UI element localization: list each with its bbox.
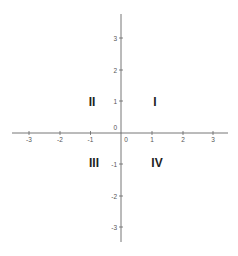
y-tick-label: 1 xyxy=(113,98,117,105)
y-tick-label: -2 xyxy=(111,193,117,200)
x-tick-label: 2 xyxy=(181,136,185,143)
y-tick-label: 3 xyxy=(113,35,117,42)
x-tick-label: -1 xyxy=(88,136,94,143)
quadrant-labels: II I III IV xyxy=(89,95,163,170)
x-tick-label: 3 xyxy=(211,136,215,143)
quadrant-label-iii: III xyxy=(89,156,99,170)
coordinate-plane: -3 -2 -1 0 1 2 3 3 2 1 0 -1 -2 -3 II I I… xyxy=(0,0,238,256)
x-tick-label: 1 xyxy=(150,136,154,143)
x-tick-label: -3 xyxy=(26,136,32,143)
quadrant-label-ii: II xyxy=(89,95,96,109)
y-tick-labels: 3 2 1 0 -1 -2 -3 xyxy=(111,35,117,231)
y-tick-label: 2 xyxy=(113,67,117,74)
y-tick-label: -1 xyxy=(111,161,117,168)
x-tick-label: 0 xyxy=(124,136,128,143)
y-tick-label: 0 xyxy=(113,124,117,131)
x-tick-label: -2 xyxy=(57,136,63,143)
quadrant-label-i: I xyxy=(153,95,156,109)
y-tick-label: -3 xyxy=(111,224,117,231)
quadrant-label-iv: IV xyxy=(151,156,162,170)
